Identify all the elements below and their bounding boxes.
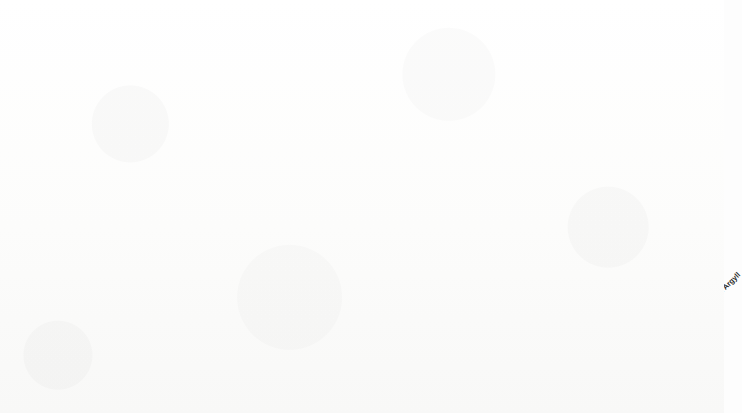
x-axis-tick-label: 10 Ayr — [411, 293, 433, 315]
x-axis-tick-label: 39 Ross — [433, 289, 460, 316]
